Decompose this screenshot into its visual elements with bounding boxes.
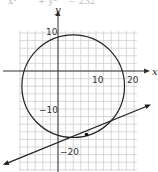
y-tick-10: 10 — [46, 27, 58, 37]
equation-fragment-3: = 232 — [68, 0, 96, 6]
y-tick-neg10: −10 — [39, 105, 58, 115]
tangent-line-arrow-left-icon — [3, 160, 9, 165]
x-tick-20: 20 — [127, 75, 139, 85]
x-axis-label: x — [152, 66, 158, 77]
y-axis-label: y — [54, 4, 61, 15]
x-axis-arrow-icon — [144, 69, 150, 74]
tangent-point — [85, 133, 89, 137]
y-tick-neg20: −20 — [60, 147, 79, 157]
coordinate-plane-figure: x² + y² = 232 x y 10 20 10 −10 −20 — [0, 0, 158, 172]
equation-fragment-group: x² + y² = 232 — [8, 0, 96, 6]
equation-fragment-1: x² — [8, 0, 17, 6]
tangent-line-arrow-right-icon — [145, 104, 151, 109]
x-tick-10: 10 — [92, 75, 104, 85]
